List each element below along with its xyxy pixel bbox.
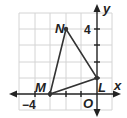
x-tick-label: −4: [22, 98, 36, 112]
x-axis-label: x: [113, 78, 122, 93]
coordinate-plane: N M L x y O −4 4: [0, 0, 127, 118]
y-tick-label: 4: [84, 23, 91, 37]
label-M: M: [35, 80, 47, 95]
label-L: L: [98, 80, 106, 95]
y-axis: [94, 4, 101, 117]
vertex-M: [48, 92, 52, 96]
label-N: N: [55, 21, 65, 36]
y-axis-down-arrow-icon: [94, 109, 101, 117]
x-axis-left-arrow-icon: [9, 91, 17, 98]
y-axis-up-arrow-icon: [94, 4, 101, 12]
vertex-N: [64, 27, 68, 31]
origin-label: O: [83, 96, 93, 111]
y-axis-label: y: [102, 1, 111, 16]
